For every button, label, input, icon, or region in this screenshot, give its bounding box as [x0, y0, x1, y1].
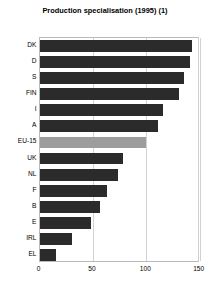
bar-row [40, 118, 200, 134]
bar-i[interactable] [40, 104, 164, 116]
bar-row [40, 151, 200, 167]
bar-uk[interactable] [40, 153, 123, 165]
bar-e[interactable] [40, 217, 91, 229]
bar-row [40, 183, 200, 199]
x-tick-label-50: 50 [88, 265, 95, 272]
bar-f[interactable] [40, 185, 107, 197]
x-tick-label-100: 100 [140, 265, 151, 272]
category-label-dk: DK [1, 41, 37, 49]
bar-irl[interactable] [40, 233, 72, 245]
bar-row [40, 70, 200, 86]
bar-row [40, 86, 200, 102]
category-label-irl: IRL [1, 234, 37, 242]
bar-row [40, 102, 200, 118]
x-tick-label-0: 0 [37, 265, 41, 272]
bar-a[interactable] [40, 120, 158, 132]
x-tick-label-150: 150 [193, 265, 204, 272]
category-label-d: D [1, 57, 37, 65]
category-label-fin: FIN [1, 89, 37, 97]
category-label-a: A [1, 121, 37, 129]
bar-row [40, 54, 200, 70]
category-label-el: EL [1, 250, 37, 258]
bar-nl[interactable] [40, 169, 118, 181]
bar-s[interactable] [40, 72, 184, 84]
bar-d[interactable] [40, 56, 190, 68]
bar-row [40, 231, 200, 247]
category-label-b: B [1, 202, 37, 210]
chart-title: Production specialisation (1995) (1) [0, 6, 210, 15]
bar-row [40, 38, 200, 54]
x-axis-tick-labels: 050100150 [0, 265, 210, 279]
bar-fin[interactable] [40, 88, 180, 100]
bar-eu-15[interactable] [40, 137, 147, 149]
bar-row [40, 215, 200, 231]
category-label-nl: NL [1, 170, 37, 178]
bar-row [40, 247, 200, 263]
bar-b[interactable] [40, 201, 101, 213]
category-label-f: F [1, 186, 37, 194]
bar-series [40, 38, 198, 261]
category-label-e: E [1, 218, 37, 226]
chart-container: Production specialisation (1995) (1) DKD… [0, 0, 210, 289]
bar-dk[interactable] [40, 40, 193, 52]
gridline-150 [200, 38, 201, 261]
bar-row [40, 167, 200, 183]
bar-row [40, 134, 200, 150]
category-label-eu-15: EU-15 [1, 137, 37, 145]
bar-row [40, 199, 200, 215]
category-label-uk: UK [1, 154, 37, 162]
category-label-s: S [1, 73, 37, 81]
bar-el[interactable] [40, 249, 56, 261]
y-axis-category-labels: DKDSFINIAEU-15UKNLFBEIRLEL [0, 37, 37, 262]
plot-area [39, 37, 199, 262]
category-label-i: I [1, 105, 37, 113]
